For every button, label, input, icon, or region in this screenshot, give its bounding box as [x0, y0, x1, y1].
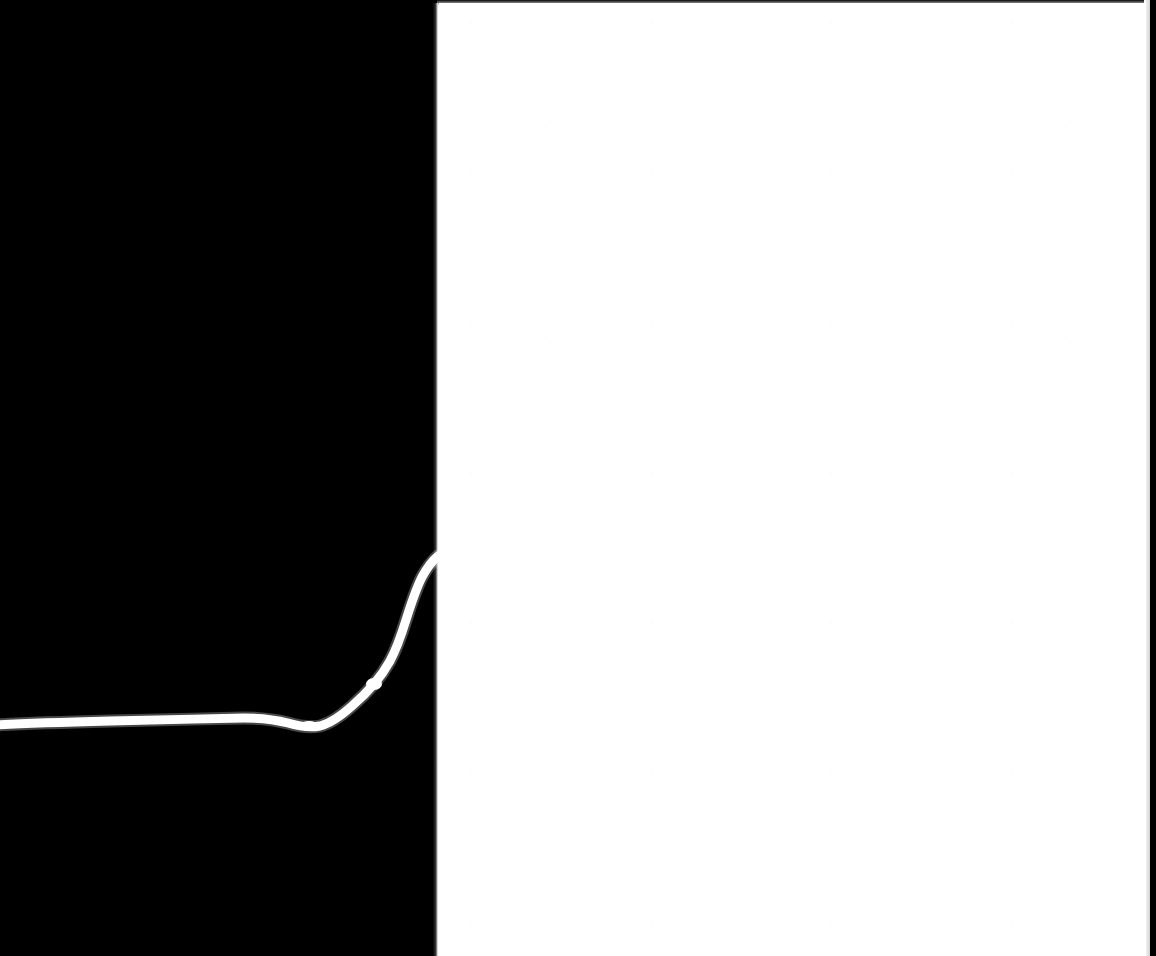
- page-merge-mask: [439, 3, 1146, 956]
- stroke-dip-node: [300, 721, 318, 731]
- scan-vector-layer: [0, 0, 1156, 956]
- stroke-knee-node: [366, 678, 382, 690]
- scan-canvas: Binarized scan fragment High-contrast tw…: [0, 0, 1156, 956]
- page-left-border: [433, 3, 438, 956]
- page-right-border-solid: [1150, 0, 1156, 956]
